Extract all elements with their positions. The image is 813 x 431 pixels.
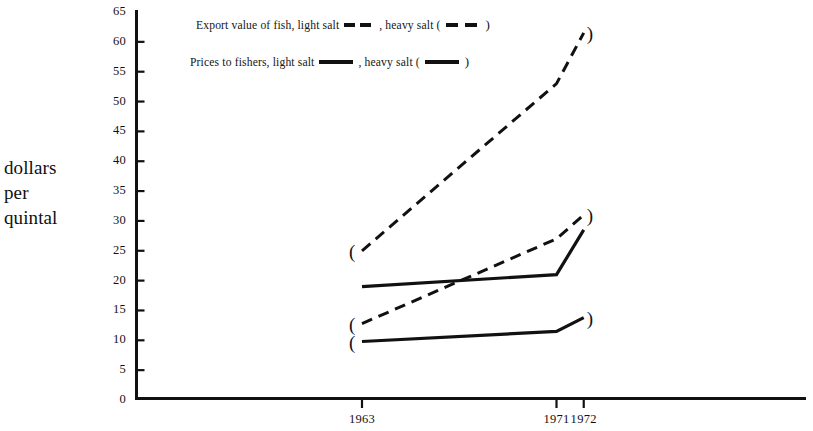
chart-series-line xyxy=(362,215,584,324)
y-axis-tick-label: 0 xyxy=(100,392,126,407)
y-axis-tick-label: 35 xyxy=(100,183,126,198)
series-close-bracket-marker: ) xyxy=(587,23,593,45)
chart-series-line xyxy=(362,230,584,287)
chart-series-group: ()()() xyxy=(349,23,593,354)
series-open-bracket-marker: ( xyxy=(349,241,355,263)
legend-entry-prices-to-fishers: Prices to fishers, light salt , heavy sa… xyxy=(190,54,470,70)
y-axis-title: dollars per quintal xyxy=(4,155,90,230)
legend-export-close-paren: ) xyxy=(485,17,491,33)
y-axis-tick-label: 50 xyxy=(100,94,126,109)
y-axis-title-line-3: quintal xyxy=(4,205,90,230)
y-axis-tick-label: 5 xyxy=(100,362,126,377)
series-close-bracket-marker: ) xyxy=(587,205,593,227)
y-axis-tick-label: 20 xyxy=(100,273,126,288)
legend-prices-heavy-salt-solid-swatch-icon xyxy=(425,60,459,63)
legend-prices-light-salt-solid-swatch-icon xyxy=(319,60,353,63)
y-axis-tick-label: 40 xyxy=(100,153,126,168)
y-axis-tick-label: 10 xyxy=(100,332,126,347)
legend-export-light-salt-label: Export value of fish, light salt xyxy=(196,19,339,32)
chart-series-line xyxy=(362,318,584,342)
x-axis-tick-label: 1972 xyxy=(554,412,614,427)
y-axis-tick-label: 60 xyxy=(100,34,126,49)
x-axis-tick-label: 1963 xyxy=(332,412,392,427)
y-axis-tick-label: 25 xyxy=(100,243,126,258)
y-axis-title-line-1: dollars xyxy=(4,155,90,180)
legend-export-light-salt-dashed-swatch-icon xyxy=(344,23,374,26)
series-open-bracket-marker: ( xyxy=(349,332,355,354)
y-axis-tick-label: 65 xyxy=(100,4,126,19)
y-axis-tick-label: 15 xyxy=(100,302,126,317)
legend-prices-light-salt-label: Prices to fishers, light salt xyxy=(190,56,314,69)
legend-prices-heavy-salt-label: , heavy salt ( xyxy=(358,56,419,69)
series-close-bracket-marker: ) xyxy=(587,308,593,330)
y-axis-tick-label: 30 xyxy=(100,213,126,228)
y-axis-tick-label: 55 xyxy=(100,64,126,79)
legend-entry-export-value: Export value of fish, light salt , heavy… xyxy=(196,17,491,33)
y-axis-title-line-2: per xyxy=(4,180,90,205)
legend-prices-close-paren: ) xyxy=(464,54,470,70)
legend-export-heavy-salt-dashed-swatch-icon xyxy=(446,23,480,26)
chart-container: ()()() dollars per quintal 0510152025303… xyxy=(0,0,813,431)
legend-export-heavy-salt-label: , heavy salt ( xyxy=(379,19,440,32)
y-axis-tick-label: 45 xyxy=(100,123,126,138)
